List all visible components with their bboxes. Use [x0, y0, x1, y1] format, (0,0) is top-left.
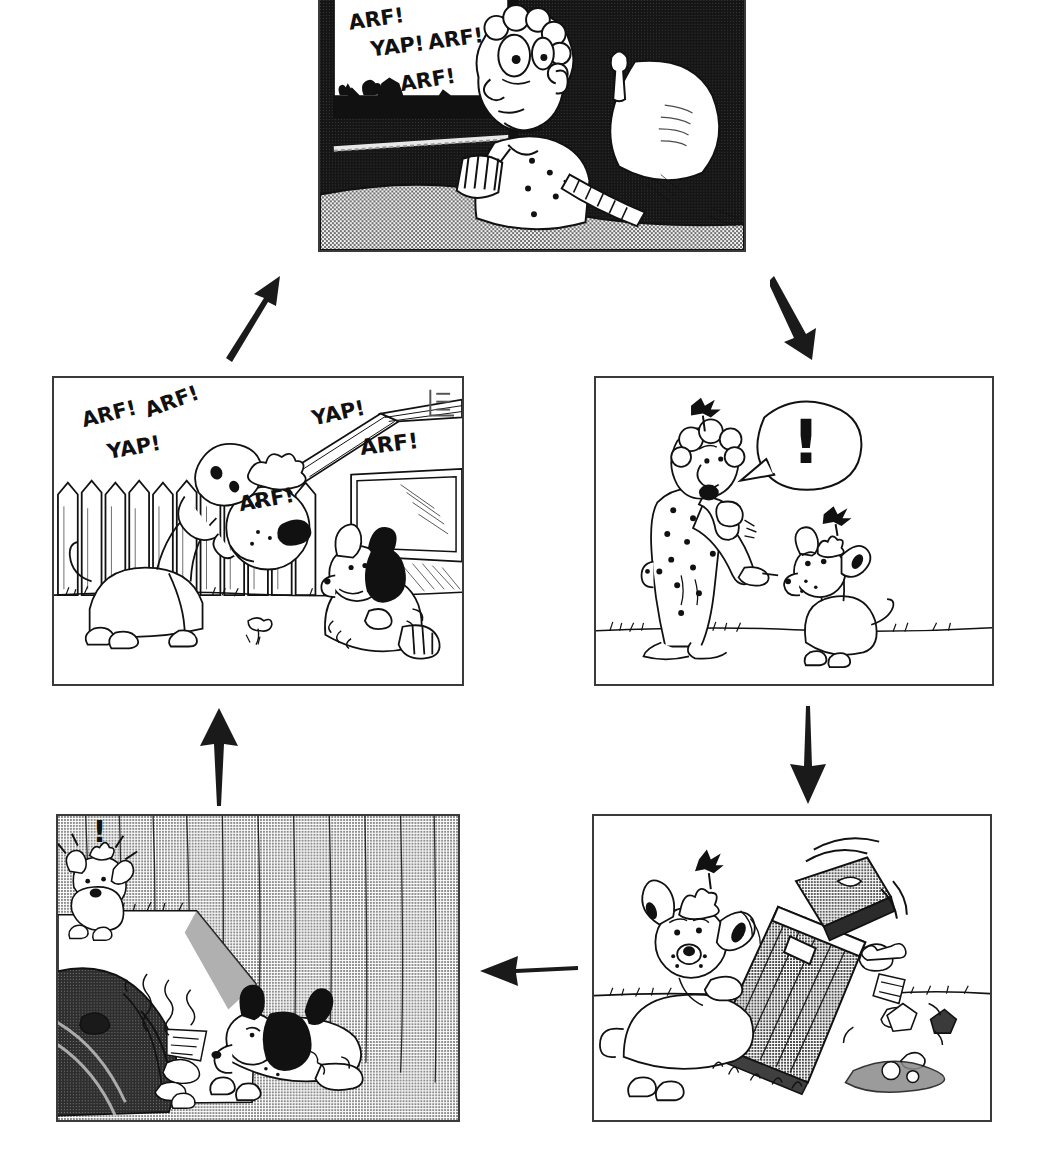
arrow-down-right-column — [788, 706, 828, 806]
panel-mid-right-art: ! — [596, 378, 992, 684]
arrow-left-bottom-row — [478, 948, 578, 992]
comic-cycle-stage: ARF! YAP! ARF! ARF! — [0, 0, 1044, 1173]
panel-mid-right: ! — [594, 376, 994, 686]
panel-bottom-right-art — [594, 816, 990, 1120]
arrow-down-right-diagonal — [770, 272, 830, 362]
arrow-up-icon — [198, 706, 240, 806]
panel-mid-left: ARF! ARF! YAP! ARF! YAP! ARF! — [52, 376, 464, 686]
panel-top-art: ARF! YAP! ARF! ARF! — [320, 0, 744, 250]
panel-bottom-right — [592, 814, 992, 1122]
arrow-down-right-icon — [770, 272, 830, 362]
arrow-up-right-icon — [218, 272, 290, 362]
speech-bubble-text: ! — [792, 406, 820, 477]
panel-bottom-left: ! — [56, 814, 460, 1122]
panel-top: ARF! YAP! ARF! ARF! — [318, 0, 746, 252]
arrow-left-icon — [478, 948, 578, 992]
exclamation-mark: ! — [93, 816, 107, 849]
arrow-up-left-column — [198, 706, 240, 806]
arrow-down-icon — [788, 706, 828, 806]
panel-bottom-left-art: ! — [58, 816, 458, 1120]
panel-mid-left-art: ARF! ARF! YAP! ARF! YAP! ARF! — [54, 378, 462, 684]
arrow-up-right-diagonal — [218, 272, 290, 362]
